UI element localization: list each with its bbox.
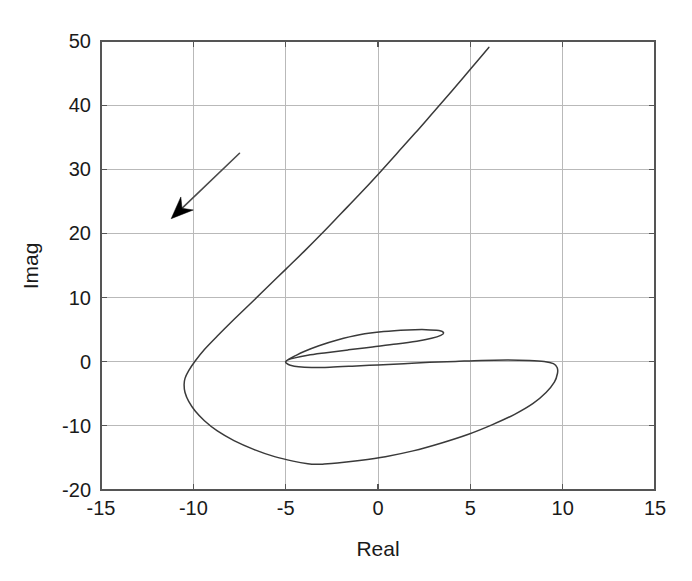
y-tick-label: -10 (62, 415, 91, 437)
x-tick-label: 0 (372, 497, 383, 519)
x-axis-title: Real (356, 537, 399, 560)
chart-canvas: -15-10-5051015 -20-1001020304050 Real Im… (0, 0, 692, 581)
y-axis-title: Imag (19, 243, 42, 290)
y-tick-label: 50 (69, 30, 91, 52)
nyquist-plot-figure: -15-10-5051015 -20-1001020304050 Real Im… (0, 0, 692, 581)
y-tick-label: 0 (80, 351, 91, 373)
y-tick-label: 40 (69, 94, 91, 116)
y-tick-label: 10 (69, 287, 91, 309)
y-tick-label: -20 (62, 479, 91, 501)
x-tick-label: 15 (644, 497, 666, 519)
y-tick-label: 30 (69, 158, 91, 180)
y-tick-label: 20 (69, 222, 91, 244)
x-tick-label: 5 (465, 497, 476, 519)
x-tick-label: -5 (277, 497, 295, 519)
x-tick-label: -10 (179, 497, 208, 519)
x-tick-label: 10 (552, 497, 574, 519)
